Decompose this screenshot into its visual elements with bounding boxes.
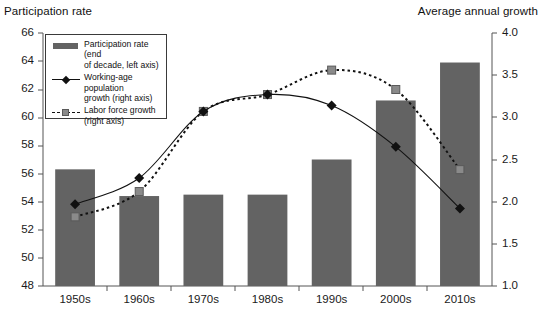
bar xyxy=(440,63,480,286)
legend-label-participation-rate: Participation rate (end of decade, left … xyxy=(84,39,162,70)
right-tick-label: 3.5 xyxy=(502,68,530,80)
left-tick-label: 58 xyxy=(10,138,34,150)
left-tick-label: 52 xyxy=(10,223,34,235)
x-tick-label: 1990s xyxy=(300,293,364,305)
bar-swatch-icon xyxy=(51,40,81,53)
legend-label-labor-force-growth: Labor force growth (right axis) xyxy=(84,105,156,126)
bar xyxy=(376,100,416,286)
right-tick-label: 4.0 xyxy=(502,26,530,38)
x-tick-label: 1960s xyxy=(107,293,171,305)
legend-item-participation-rate: Participation rate (end of decade, left … xyxy=(51,39,162,70)
right-tick-label: 3.0 xyxy=(502,110,530,122)
series-marker xyxy=(456,166,464,174)
left-axis-ticks xyxy=(38,33,43,286)
right-tick-label: 2.5 xyxy=(502,153,530,165)
legend-label-line1: Participation rate (end xyxy=(84,39,149,59)
x-tick-label: 1980s xyxy=(236,293,300,305)
legend-label-working-age-population-growth: Working-age population growth (right axi… xyxy=(84,72,162,103)
left-tick-label: 48 xyxy=(10,279,34,291)
series-marker xyxy=(392,86,400,94)
series-marker xyxy=(327,101,337,111)
legend-item-working-age-population-growth: Working-age population growth (right axi… xyxy=(51,72,162,103)
x-axis-ticks xyxy=(107,286,427,291)
left-tick-label: 66 xyxy=(10,26,34,38)
left-tick-label: 60 xyxy=(10,110,34,122)
legend-label-line2: (right axis) xyxy=(84,116,124,126)
bar xyxy=(248,195,288,286)
x-tick-label: 1950s xyxy=(43,293,107,305)
bar xyxy=(119,196,159,286)
x-tick-label: 2010s xyxy=(428,293,492,305)
left-tick-label: 62 xyxy=(10,82,34,94)
left-tick-label: 54 xyxy=(10,195,34,207)
left-tick-label: 50 xyxy=(10,251,34,263)
dashed-line-square-swatch-icon xyxy=(51,106,81,119)
right-tick-label: 1.5 xyxy=(502,237,530,249)
left-tick-label: 56 xyxy=(10,167,34,179)
series-marker xyxy=(328,66,336,74)
bar xyxy=(183,195,223,286)
x-tick-label: 1970s xyxy=(171,293,235,305)
legend-item-labor-force-growth: Labor force growth (right axis) xyxy=(51,105,162,126)
legend-label-line1: Working-age population xyxy=(84,72,133,92)
bar xyxy=(312,160,352,287)
right-tick-label: 1.0 xyxy=(502,279,530,291)
x-tick-label: 2000s xyxy=(364,293,428,305)
legend-label-line2: of decade, left axis) xyxy=(84,60,159,70)
chart-legend: Participation rate (end of decade, left … xyxy=(45,34,167,119)
right-axis-ticks xyxy=(492,33,497,286)
bar xyxy=(55,169,95,286)
legend-label-line2: growth (right axis) xyxy=(84,93,152,103)
left-tick-label: 64 xyxy=(10,54,34,66)
legend-label-line1: Labor force growth xyxy=(84,105,156,115)
chart-container: Participation rate Average annual growth xyxy=(0,0,544,313)
right-tick-label: 2.0 xyxy=(502,195,530,207)
series-marker xyxy=(135,188,143,196)
series-marker xyxy=(71,213,79,221)
solid-line-diamond-swatch-icon xyxy=(51,73,81,86)
